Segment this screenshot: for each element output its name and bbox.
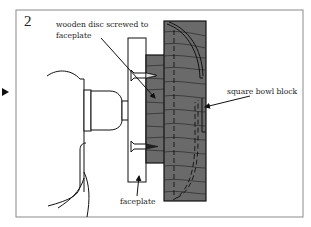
faceplate-mounting-diagram: 2 wooden disc screwed to	[0, 0, 311, 227]
step-number: 2	[24, 13, 32, 29]
label-wooden-disc-line2: faceplate	[56, 31, 92, 40]
label-faceplate: faceplate	[120, 197, 156, 206]
page-pointer-icon	[2, 88, 9, 96]
label-wooden-disc: wooden disc screwed to	[56, 20, 149, 29]
square-bowl-block	[164, 21, 206, 201]
label-square-bowl-block: square bowl block	[227, 87, 298, 96]
faceplate	[128, 38, 146, 182]
